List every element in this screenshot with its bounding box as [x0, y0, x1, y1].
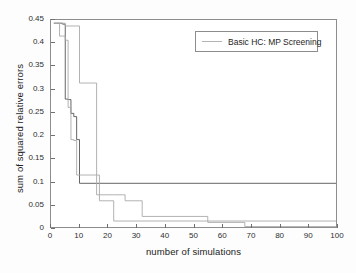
y-tick [51, 158, 55, 159]
x-tick-label: 70 [246, 231, 255, 241]
y-tick [51, 182, 55, 183]
legend-label: Basic HC: MP Screening [228, 37, 321, 47]
legend-line-sample [202, 41, 222, 42]
x-tick-label: 10 [74, 231, 83, 241]
x-tick [280, 224, 281, 228]
y-tick-label: 0.45 [0, 14, 44, 24]
x-tick [337, 224, 338, 228]
x-tick-label: 100 [330, 231, 343, 241]
x-tick [194, 224, 195, 228]
figure-canvas: 0102030405060708090100 00.050.10.150.20.… [0, 0, 356, 273]
x-tick [251, 224, 252, 228]
y-tick [51, 19, 55, 20]
x-tick-label: 30 [132, 231, 141, 241]
x-tick [136, 224, 137, 228]
y-tick [51, 89, 55, 90]
x-tick-label: 90 [304, 231, 313, 241]
series-line [54, 23, 336, 226]
legend-box: Basic HC: MP Screening [195, 31, 318, 52]
x-tick-label: 60 [218, 231, 227, 241]
y-tick [51, 65, 55, 66]
x-tick-label: 40 [160, 231, 169, 241]
x-tick-label: 0 [48, 231, 52, 241]
x-tick [222, 224, 223, 228]
x-tick [79, 224, 80, 228]
x-axis-title: number of simulations [50, 246, 337, 257]
x-tick [165, 224, 166, 228]
y-tick-label: 0 [0, 223, 44, 233]
y-tick [51, 42, 55, 43]
y-tick [51, 112, 55, 113]
x-tick [107, 224, 108, 228]
x-tick-label: 50 [189, 231, 198, 241]
x-tick-label: 80 [275, 231, 284, 241]
y-axis-title: sum of squared relative errors [14, 44, 25, 214]
y-tick [51, 205, 55, 206]
x-tick [308, 224, 309, 228]
y-tick [51, 228, 55, 229]
x-tick-label: 20 [103, 231, 112, 241]
y-tick [51, 135, 55, 136]
